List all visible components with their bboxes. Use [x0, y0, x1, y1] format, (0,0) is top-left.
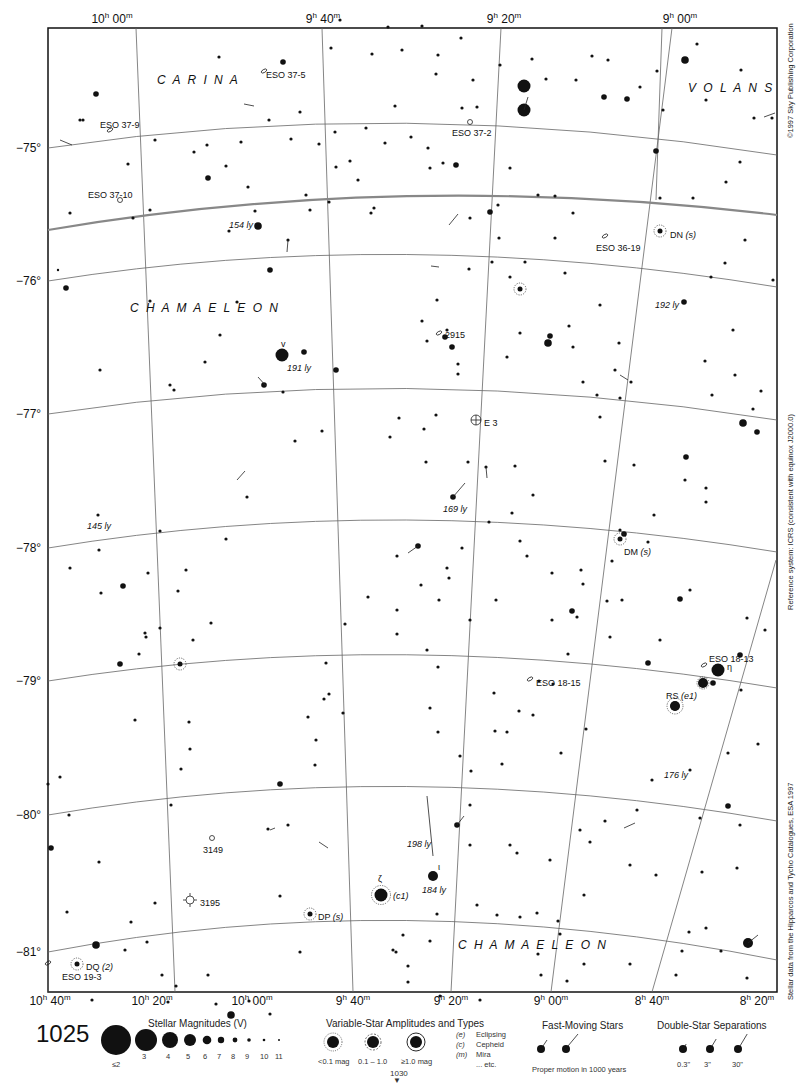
star [97, 548, 100, 551]
star [683, 478, 686, 481]
star [468, 618, 471, 621]
star [691, 196, 694, 199]
star [661, 108, 664, 111]
star [401, 933, 404, 936]
star [280, 59, 286, 65]
star [456, 372, 459, 375]
star [754, 429, 760, 435]
double-star-icon [734, 1034, 747, 1053]
star [356, 178, 359, 181]
distance-label: 184 ly [422, 885, 446, 895]
star [517, 709, 520, 712]
star [422, 427, 425, 430]
star [632, 463, 635, 466]
distance-label: 198 ly [407, 839, 431, 849]
star [317, 142, 320, 145]
star [674, 973, 677, 976]
star [658, 638, 661, 641]
star [704, 500, 707, 503]
star [654, 873, 657, 876]
star [343, 622, 346, 625]
reference-system-text: Reference system: ICRS (consistent with … [786, 414, 795, 610]
ra-tick-label: 9h 00m [663, 12, 698, 26]
star [428, 939, 431, 942]
star [388, 435, 391, 438]
star [712, 664, 725, 677]
star [735, 866, 738, 869]
star [168, 383, 171, 386]
variable-star-icon [304, 908, 316, 920]
variable-star-icon [614, 533, 626, 545]
star [646, 540, 649, 543]
star [449, 344, 455, 350]
star [578, 828, 581, 831]
deep-sky-label: 2915 [445, 330, 465, 340]
star [306, 715, 309, 718]
star [209, 621, 212, 624]
star [386, 25, 389, 28]
star [751, 407, 754, 410]
star [123, 948, 126, 951]
star [759, 389, 762, 392]
star [81, 118, 84, 121]
star [698, 816, 701, 819]
star [131, 216, 134, 219]
star [68, 566, 71, 569]
star [409, 135, 412, 138]
star [301, 349, 307, 355]
star [733, 373, 736, 376]
copyright-text: ©1997 Sky Publishing Corporation [786, 23, 795, 138]
star [246, 185, 249, 188]
star [276, 349, 289, 362]
star [497, 236, 500, 239]
star [518, 539, 521, 542]
star [364, 126, 367, 129]
variable-star-icon [514, 283, 526, 295]
star [395, 554, 398, 557]
star [395, 632, 398, 635]
star [333, 130, 336, 133]
star [531, 713, 534, 716]
star [436, 53, 439, 56]
star [313, 763, 316, 766]
star [468, 216, 471, 219]
magnitude-sample-icon [218, 1037, 224, 1043]
star [723, 261, 726, 264]
star [426, 146, 429, 149]
star [658, 196, 661, 199]
double-star-icon [679, 1044, 687, 1053]
star [745, 616, 748, 619]
star [314, 738, 317, 741]
magnitude-sample-icon [162, 1032, 178, 1048]
deep-sky-markers [45, 68, 708, 966]
ra-tick-label: 9h 40m [306, 12, 341, 26]
star [725, 803, 731, 809]
magnitude-sample-icon [263, 1039, 266, 1042]
star [97, 860, 100, 863]
star [496, 203, 499, 206]
star [523, 260, 526, 263]
star [569, 608, 575, 614]
star [598, 303, 601, 306]
star [613, 368, 616, 371]
star [327, 692, 330, 695]
star [434, 72, 437, 75]
deep-sky-label: E 3 [484, 418, 498, 428]
star [456, 362, 459, 365]
star [68, 211, 71, 214]
star [224, 537, 227, 540]
star [752, 116, 755, 119]
star [441, 161, 444, 164]
star [435, 912, 438, 915]
star [65, 910, 68, 913]
star [129, 920, 132, 923]
star [494, 598, 497, 601]
star [145, 940, 148, 943]
star [174, 984, 177, 987]
star [575, 615, 578, 618]
star [143, 631, 146, 634]
star [588, 840, 591, 843]
star [638, 85, 641, 88]
star [565, 979, 568, 982]
deep-sky-marker-icon [527, 676, 534, 682]
